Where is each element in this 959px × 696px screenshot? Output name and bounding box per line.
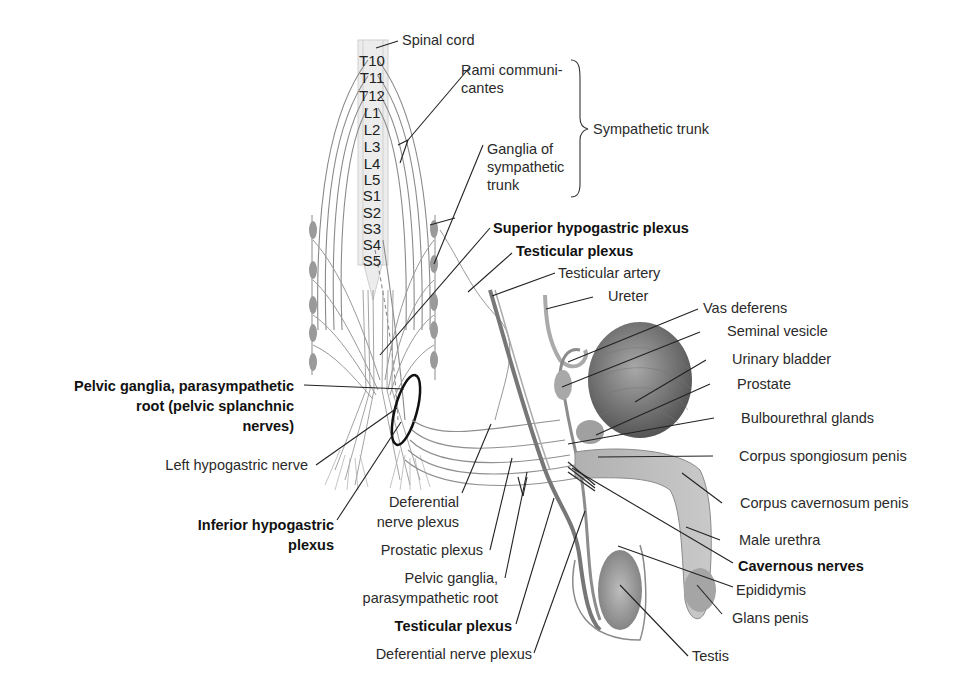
glans-penis-shape bbox=[684, 568, 716, 612]
label-ureter: Ureter bbox=[608, 288, 648, 305]
label-vas-deferens: Vas deferens bbox=[703, 300, 787, 317]
segment-s2: S2 bbox=[357, 205, 387, 220]
label-testicular-plexus-bottom: Testicular plexus bbox=[395, 618, 512, 635]
label-superior-hypogastric-plexus: Superior hypogastric plexus bbox=[493, 220, 689, 237]
label-pelvic-ganglia-root-3: nerves) bbox=[242, 418, 294, 435]
label-deferential-plexus-1: Deferential bbox=[389, 494, 459, 511]
label-glans-penis: Glans penis bbox=[732, 610, 809, 627]
label-pelvic-ganglia-2-1: Pelvic ganglia, bbox=[405, 570, 499, 587]
segment-t11: T11 bbox=[357, 70, 387, 85]
rami-network bbox=[313, 230, 510, 420]
label-spinal-cord: Spinal cord bbox=[402, 32, 475, 49]
segment-s1: S1 bbox=[357, 188, 387, 203]
segment-l1: L1 bbox=[357, 105, 387, 120]
segment-l4: L4 bbox=[357, 156, 387, 171]
segment-s3: S3 bbox=[357, 221, 387, 236]
label-epididymis: Epididymis bbox=[736, 582, 806, 599]
label-ganglia-3: trunk bbox=[487, 177, 519, 194]
label-seminal-vesicle: Seminal vesicle bbox=[727, 323, 828, 340]
label-prostatic-plexus: Prostatic plexus bbox=[381, 542, 483, 559]
label-deferential-nerve-plexus-bottom: Deferential nerve plexus bbox=[376, 646, 532, 663]
label-male-urethra: Male urethra bbox=[739, 532, 820, 549]
label-sympathetic-trunk: Sympathetic trunk bbox=[593, 121, 709, 138]
label-corpus-cavernosum: Corpus cavernosum penis bbox=[740, 495, 908, 512]
label-prostate: Prostate bbox=[737, 376, 791, 393]
pelvic-plexus-branches bbox=[405, 420, 578, 485]
segment-l2: L2 bbox=[357, 122, 387, 137]
label-rami-communicantes-2: cantes bbox=[461, 80, 504, 97]
seminal-vesicle-shape bbox=[554, 370, 572, 400]
male-pelvic-innervation-diagram: T10 T11 T12 L1 L2 L3 L4 L5 S1 S2 S3 S4 S… bbox=[0, 0, 959, 696]
testis-shape bbox=[598, 550, 642, 630]
label-ganglia-1: Ganglia of bbox=[487, 141, 553, 158]
segment-l3: L3 bbox=[357, 139, 387, 154]
sympathetic-trunk-brace bbox=[571, 60, 588, 197]
label-pelvic-ganglia-2-2: parasympathetic root bbox=[363, 590, 498, 607]
label-cavernous-nerves: Cavernous nerves bbox=[738, 558, 864, 575]
label-testicular-artery: Testicular artery bbox=[558, 265, 660, 282]
label-deferential-plexus-2: nerve plexus bbox=[377, 514, 459, 531]
label-testicular-plexus-top: Testicular plexus bbox=[516, 243, 633, 260]
segment-t12: T12 bbox=[357, 88, 387, 103]
segment-t10: T10 bbox=[357, 53, 387, 68]
label-inferior-hypogastric-2: plexus bbox=[288, 537, 334, 554]
label-ganglia-2: sympathetic bbox=[487, 159, 564, 176]
segment-s5: S5 bbox=[357, 253, 387, 268]
label-bulbourethral-glands: Bulbourethral glands bbox=[741, 410, 874, 427]
segment-l5: L5 bbox=[357, 172, 387, 187]
urinary-bladder-shape bbox=[588, 322, 692, 438]
segment-s4: S4 bbox=[357, 237, 387, 252]
label-testis: Testis bbox=[692, 648, 729, 665]
label-corpus-spongiosum: Corpus spongiosum penis bbox=[739, 448, 907, 465]
label-urinary-bladder: Urinary bladder bbox=[732, 351, 831, 368]
label-rami-communicantes-1: Rami communi- bbox=[461, 62, 563, 79]
label-pelvic-ganglia-root-1: Pelvic ganglia, parasympathetic bbox=[74, 378, 294, 395]
label-pelvic-ganglia-root-2: root (pelvic splanchnic bbox=[136, 398, 294, 415]
label-inferior-hypogastric-1: Inferior hypogastric bbox=[198, 517, 334, 534]
label-left-hypogastric-nerve: Left hypogastric nerve bbox=[165, 457, 308, 474]
